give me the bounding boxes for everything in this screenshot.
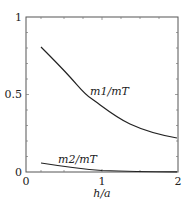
y-tick-0: 0 — [15, 166, 22, 179]
x-tick-0: 0 — [23, 175, 30, 188]
chart: 1 0.5 0 0 1 2 h/a m1/mT m2/mT — [0, 0, 188, 207]
y-tick-05: 0.5 — [5, 88, 23, 101]
series-m2-label: m2/mT — [58, 153, 99, 166]
x-axis-label: h/a — [93, 187, 110, 200]
series-m1-label: m1/mT — [90, 85, 131, 98]
x-tick-2: 2 — [175, 175, 182, 188]
y-tick-1: 1 — [15, 11, 22, 24]
